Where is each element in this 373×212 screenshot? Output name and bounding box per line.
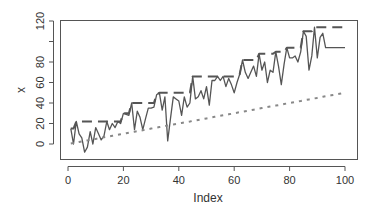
x-tick-label: 40 (173, 174, 185, 186)
series-cummax-x- (71, 27, 345, 128)
x-tick-label: 20 (117, 174, 129, 186)
y-tick-label: 120 (34, 12, 46, 30)
series-layer (71, 27, 345, 152)
y-tick-label: 60 (34, 76, 46, 88)
x-tick-label: 80 (283, 174, 295, 186)
series-x (71, 27, 345, 152)
y-axis-label: x (14, 87, 28, 93)
series-trend (71, 93, 345, 144)
x-tick-label: 60 (228, 174, 240, 186)
x-tick-label: 100 (336, 174, 354, 186)
line-chart: 020406080100 020406080120 Index x (0, 0, 373, 212)
x-axis-label: Index (193, 191, 222, 205)
y-tick-label: 20 (34, 117, 46, 129)
x-tick-label: 0 (65, 174, 71, 186)
y-tick-label: 0 (34, 141, 46, 147)
y-tick-label: 80 (34, 56, 46, 68)
x-axis: 020406080100 (65, 167, 354, 187)
y-tick-label: 40 (34, 97, 46, 109)
y-axis: 020406080120 (34, 12, 54, 147)
